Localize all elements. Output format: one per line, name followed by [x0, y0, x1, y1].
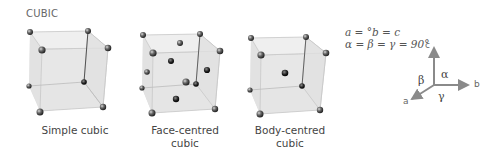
gamma-label: γ — [438, 90, 445, 103]
label-line: Body-centred — [235, 124, 345, 137]
alpha-label: α — [441, 68, 448, 81]
body-centred-cubic-label: Body-centred cubic — [235, 124, 345, 150]
angles-equation: α = β = γ = 90° — [345, 38, 429, 50]
lengths-equation: a = °b = c — [345, 26, 400, 38]
axis-a-label: a — [403, 96, 409, 106]
body-centred-cubic-cube — [247, 34, 329, 118]
label-line: cubic — [235, 137, 345, 150]
axis-b-label: b — [474, 79, 480, 89]
label-line: cubic — [130, 137, 240, 150]
simple-cubic-label: Simple cubic — [20, 124, 130, 137]
beta-label: β — [418, 74, 424, 87]
simple-cubic-cube — [26, 28, 111, 116]
face-centred-cubic-label: Face-centred cubic — [130, 124, 240, 150]
axis-c-label: c — [425, 40, 430, 50]
label-line: Face-centred — [130, 124, 240, 137]
face-centred-cubic-cube — [139, 31, 223, 117]
